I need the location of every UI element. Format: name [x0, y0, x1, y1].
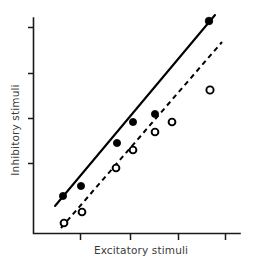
data-point-filled-4	[129, 118, 136, 125]
data-point-open-4	[130, 147, 137, 154]
x-axis-ticks	[81, 234, 226, 241]
chart-figure: Excitatory stimuli Inhibitory stimuli	[0, 0, 253, 267]
data-point-open-2	[79, 209, 86, 216]
filled-series-fit-line	[55, 15, 215, 206]
data-point-open-1	[61, 220, 68, 227]
y-axis-ticks	[28, 28, 34, 164]
data-point-open-7	[206, 86, 213, 93]
dashed-trend-line	[61, 42, 222, 228]
data-point-filled-5	[151, 110, 158, 117]
axis-lines	[34, 18, 241, 234]
data-point-open-6	[169, 119, 176, 126]
data-point-filled-3	[113, 139, 120, 146]
data-point-filled-6	[205, 17, 213, 25]
data-point-open-3	[113, 165, 120, 172]
scatter-plot-canvas: Excitatory stimuli Inhibitory stimuli	[0, 0, 253, 267]
solid-trend-line	[55, 15, 215, 206]
data-point-filled-2	[77, 182, 84, 189]
data-point-open-5	[152, 129, 159, 136]
data-point-filled-1	[59, 192, 66, 199]
y-axis-label: Inhibitory stimuli	[9, 84, 21, 175]
axes-group	[34, 18, 241, 234]
x-axis-label: Excitatory stimuli	[94, 244, 188, 256]
open-series-fit-line	[61, 42, 222, 228]
